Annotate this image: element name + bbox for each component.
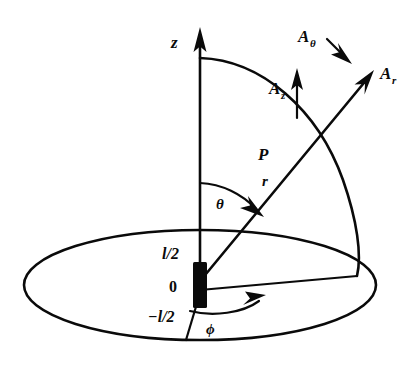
a-z-label: A z: [268, 79, 286, 101]
dipole-origin-label: 0: [169, 278, 177, 295]
z-axis-label: z: [170, 33, 178, 52]
svg-text:z: z: [280, 89, 286, 101]
dipole-upper-end-label: l/2: [162, 245, 179, 262]
figure-container: z P r θ ϕ l/2 0 −l/2 A θ A z A r: [0, 0, 419, 368]
a-theta-label: A θ: [297, 27, 316, 49]
dipole-lower-end-label: −l/2: [148, 308, 175, 325]
point-p-label: P: [257, 145, 269, 164]
lower-projection-line: [186, 300, 198, 340]
spherical-coordinate-diagram: z P r θ ϕ l/2 0 −l/2 A θ A z A r: [0, 0, 419, 368]
azimuth-projection-line: [200, 276, 357, 290]
theta-angle-arc: [200, 183, 256, 209]
svg-text:r: r: [392, 74, 397, 86]
svg-text:A: A: [268, 79, 280, 98]
theta-angle-label: θ: [216, 196, 224, 212]
a-r-label: A r: [379, 64, 397, 86]
dipole-element: [193, 262, 207, 308]
svg-text:θ: θ: [310, 37, 316, 49]
svg-text:A: A: [379, 64, 391, 83]
phi-angle-label: ϕ: [206, 321, 215, 337]
radial-line-r: [196, 78, 368, 286]
radial-distance-label: r: [262, 173, 268, 189]
svg-text:A: A: [297, 27, 309, 46]
